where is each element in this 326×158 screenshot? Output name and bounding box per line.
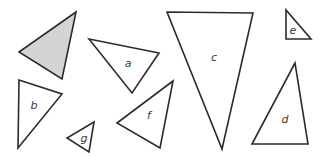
triangle-e-label: e (290, 24, 297, 37)
triangle-g: g (67, 122, 94, 152)
triangle-d-shape (252, 63, 308, 144)
triangle-d: d (252, 63, 308, 144)
triangle-b-shape (18, 80, 62, 148)
triangle-e: e (286, 10, 311, 39)
triangle-b: b (18, 80, 62, 148)
triangle-a-label: a (125, 57, 132, 70)
triangles-diagram: a b c d e f g (0, 0, 326, 158)
triangle-g-label: g (81, 132, 88, 145)
triangle-b-label: b (31, 99, 38, 112)
triangle-shaded (19, 12, 76, 79)
triangle-f-shape (117, 81, 173, 148)
triangle-c-shape (167, 12, 253, 149)
triangle-c: c (167, 12, 253, 149)
triangle-a: a (89, 39, 159, 93)
triangle-d-label: d (282, 113, 290, 126)
shaded-triangle-shape (19, 12, 76, 79)
diagram-svg: a b c d e f g (0, 0, 326, 158)
triangle-f: f (117, 81, 173, 148)
triangle-c-label: c (211, 51, 217, 64)
